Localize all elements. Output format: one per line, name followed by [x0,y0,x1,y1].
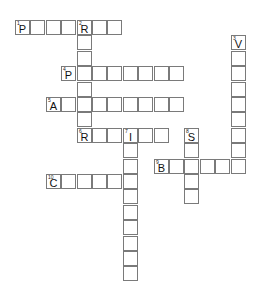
crossword-cell[interactable]: 6R [77,128,92,143]
crossword-cell[interactable]: 3V [231,35,246,50]
crossword-cell[interactable] [46,20,61,35]
crossword-cell[interactable] [231,97,246,112]
crossword-cell[interactable] [231,82,246,97]
crossword-cell[interactable] [123,189,138,204]
crossword-cell[interactable] [154,66,169,81]
crossword-cell[interactable] [107,174,122,189]
crossword-cell[interactable] [107,128,122,143]
crossword-cell[interactable]: 2R [77,20,92,35]
crossword-cell[interactable] [61,20,76,35]
crossword-cell[interactable]: 5A [46,97,61,112]
crossword-cell[interactable] [107,20,122,35]
crossword-grid: 1P2R6R3V4P5A7I8S9B10C [0,0,259,293]
cell-letter: S [185,132,198,143]
crossword-cell[interactable] [169,159,184,174]
cell-letter: A [47,101,60,112]
crossword-cell[interactable] [184,189,199,204]
crossword-cell[interactable] [123,205,138,220]
crossword-cell[interactable] [123,236,138,251]
cell-letter: B [155,163,168,174]
crossword-cell[interactable] [92,97,107,112]
crossword-cell[interactable] [169,97,184,112]
crossword-cell[interactable] [138,97,153,112]
crossword-cell[interactable] [92,20,107,35]
crossword-cell[interactable] [231,143,246,158]
crossword-cell[interactable] [123,143,138,158]
crossword-cell[interactable] [231,66,246,81]
crossword-cell[interactable] [123,66,138,81]
crossword-cell[interactable] [200,159,215,174]
cell-letter: I [124,132,137,143]
crossword-cell[interactable] [107,66,122,81]
crossword-cell[interactable] [123,97,138,112]
crossword-cell[interactable] [154,97,169,112]
crossword-cell[interactable] [123,266,138,281]
crossword-cell[interactable] [123,174,138,189]
cell-letter: C [47,178,60,189]
crossword-cell[interactable] [184,159,199,174]
crossword-cell[interactable] [61,97,76,112]
crossword-cell[interactable] [123,159,138,174]
crossword-cell[interactable] [231,112,246,127]
crossword-cell[interactable]: 4P [61,66,76,81]
crossword-cell[interactable] [77,51,92,66]
cell-letter: P [62,70,75,81]
crossword-cell[interactable]: 1P [15,20,30,35]
crossword-cell[interactable] [184,174,199,189]
crossword-cell[interactable]: 7I [123,128,138,143]
crossword-cell[interactable] [30,20,45,35]
crossword-cell[interactable]: 9B [154,159,169,174]
crossword-cell[interactable] [231,159,246,174]
crossword-cell[interactable] [61,174,76,189]
crossword-cell[interactable] [215,159,230,174]
crossword-cell[interactable] [92,174,107,189]
cell-letter: V [232,39,245,50]
crossword-cell[interactable] [77,112,92,127]
crossword-cell[interactable] [92,66,107,81]
crossword-cell[interactable] [107,97,122,112]
crossword-cell[interactable] [123,251,138,266]
crossword-cell[interactable]: 8S [184,128,199,143]
crossword-cell[interactable] [77,82,92,97]
cell-letter: P [16,24,29,35]
crossword-cell[interactable] [123,220,138,235]
crossword-cell[interactable] [138,128,153,143]
crossword-cell[interactable] [77,35,92,50]
crossword-cell[interactable] [154,128,169,143]
crossword-cell[interactable] [231,51,246,66]
crossword-cell[interactable] [231,128,246,143]
crossword-cell[interactable]: 10C [46,174,61,189]
crossword-cell[interactable] [77,97,92,112]
crossword-cell[interactable] [92,128,107,143]
crossword-cell[interactable] [184,143,199,158]
crossword-cell[interactable] [138,66,153,81]
cell-letter: R [78,132,91,143]
crossword-cell[interactable] [77,66,92,81]
cell-letter: R [78,24,91,35]
crossword-cell[interactable] [169,66,184,81]
crossword-cell[interactable] [77,174,92,189]
